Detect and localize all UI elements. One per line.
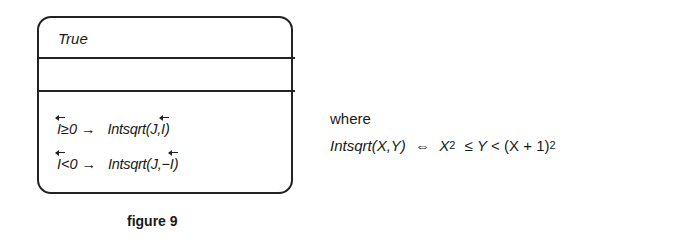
iff-arrow-icon: ⇔: [415, 137, 430, 154]
formula-rhs: (X + 1): [504, 137, 549, 154]
formula-y: Y: [477, 137, 487, 154]
guard-label: True: [58, 30, 88, 47]
condition: <0: [61, 156, 78, 172]
figure-caption: figure 9: [127, 213, 178, 229]
divider-bottom: [37, 90, 295, 92]
action-prefix: Intsqrt(J,: [108, 121, 161, 137]
formula-x: X: [439, 137, 449, 154]
right-arrow-icon: →: [82, 156, 97, 172]
overarrow-var: I: [57, 156, 61, 172]
overarrow-var: I: [170, 156, 174, 172]
divider-top: [37, 57, 295, 59]
overarrow-var: I: [161, 121, 165, 137]
action-prefix: Intsqrt(J,−: [108, 156, 170, 172]
condition: ≥0: [61, 121, 77, 137]
rule-row-1: I≥0→Intsqrt(J,I): [57, 121, 170, 137]
right-arrow-icon: →: [81, 121, 96, 137]
formula-lhs: Intsqrt(X,Y): [330, 137, 406, 154]
action-suffix: ): [174, 156, 179, 172]
overarrow-var: I: [57, 121, 61, 137]
state-box: True I≥0→Intsqrt(J,I) I<0→Intsqrt(J,−I): [37, 16, 293, 194]
action-suffix: ): [165, 121, 170, 137]
where-label: where: [330, 110, 371, 127]
rule-row-2: I<0→Intsqrt(J,−I): [57, 156, 179, 172]
lt-symbol: <: [491, 137, 500, 154]
definition-formula: Intsqrt(X,Y) ⇔ X2 ≤ Y < (X + 1)2: [330, 137, 556, 154]
exponent: 2: [449, 139, 455, 151]
leq-symbol: ≤: [465, 137, 473, 154]
exponent: 2: [549, 139, 555, 151]
